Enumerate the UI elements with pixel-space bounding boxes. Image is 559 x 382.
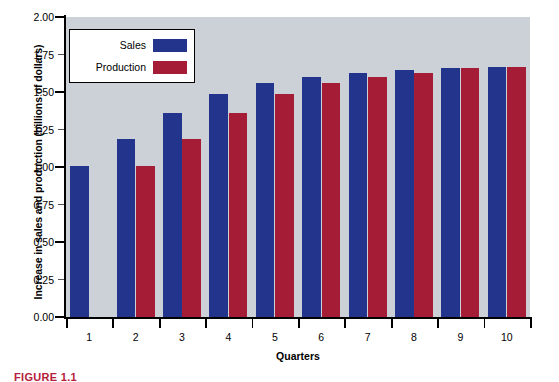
x-axis-tick [66,319,68,328]
x-axis-title: Quarters [66,350,530,362]
bar-sales-q10 [488,67,507,318]
bar-production-q9 [461,68,480,317]
bar-production-q6 [322,83,341,317]
x-axis-label-q9: 9 [445,331,475,343]
x-axis-label-q4: 4 [213,331,243,343]
legend-item-sales: Sales [75,34,187,56]
y-axis-label: 1.50 [12,86,54,98]
bar-sales-q9 [441,68,460,317]
x-axis-tick [205,319,207,328]
x-axis-tick [112,319,114,328]
x-axis-tick [159,319,161,328]
x-axis-label-q10: 10 [492,331,522,343]
x-axis-tick [437,319,439,328]
y-axis-label: 0.75 [12,199,54,211]
x-axis-tick [391,319,393,328]
bar-production-q7 [368,77,387,317]
legend-swatch-production [153,61,187,74]
bar-sales-q1 [70,166,89,318]
bar-sales-q2 [117,139,136,318]
y-axis-label: 0.25 [12,274,54,286]
bar-sales-q4 [209,94,228,318]
x-axis-label-q5: 5 [260,331,290,343]
x-axis-tick [484,319,486,328]
legend-label-sales: Sales [120,39,146,51]
legend-label-production: Production [96,61,146,73]
x-axis-tick [530,319,532,328]
bar-sales-q3 [163,113,182,317]
bar-production-q2 [136,166,155,318]
legend-swatch-sales [153,39,187,52]
x-axis-label-q8: 8 [399,331,429,343]
x-axis-label-q6: 6 [306,331,336,343]
y-axis-label: 1.75 [12,49,54,61]
bar-production-q5 [275,94,294,318]
x-axis-label-q3: 3 [167,331,197,343]
bar-sales-q6 [302,77,321,317]
y-axis-label: 2.00 [12,11,54,23]
bar-sales-q7 [349,73,368,318]
chart-legend: Sales Production [69,29,195,83]
figure-caption: FIGURE 1.1 [14,371,77,382]
y-axis-label: 1.00 [12,161,54,173]
x-axis-label-q2: 2 [121,331,151,343]
x-axis-label-q7: 7 [353,331,383,343]
x-axis-tick [344,319,346,328]
bar-sales-q8 [395,70,414,318]
x-axis-label-q1: 1 [74,331,104,343]
figure-root: Increase in sales and production (billio… [0,0,559,382]
bar-production-q8 [414,73,433,318]
x-axis-tick [252,319,254,328]
y-axis-label: 0.50 [12,236,54,248]
y-axis-label: 1.25 [12,124,54,136]
legend-item-production: Production [75,56,187,78]
bar-production-q3 [182,139,201,318]
bar-sales-q5 [256,83,275,317]
bar-production-q4 [229,113,248,317]
y-axis-label: 0.00 [12,311,54,323]
bar-production-q10 [507,67,526,318]
x-axis-tick [298,319,300,328]
